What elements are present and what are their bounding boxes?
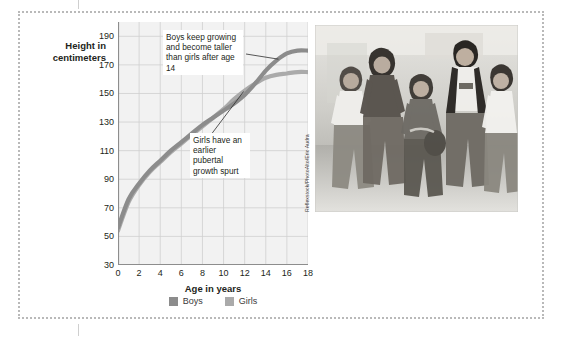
x-tick-label: 0: [115, 269, 120, 278]
legend-label: Boys: [183, 296, 203, 306]
legend-label: Girls: [239, 296, 258, 306]
legend-item: Girls: [225, 296, 258, 306]
y-tick-label: 70: [104, 203, 114, 212]
y-tick-label: 130: [99, 118, 114, 127]
y-tick-label: 50: [104, 232, 114, 241]
chart-legend: BoysGirls: [118, 296, 308, 306]
photo-graphic: [315, 25, 518, 212]
photo-block: Reflexstock/PhotoAlto/Eric Audra: [302, 25, 518, 212]
y-tick-label: 90: [104, 175, 114, 184]
x-tick-label: 18: [303, 269, 313, 278]
annotation-girls: Girls have an earlier pubertal growth sp…: [190, 133, 250, 178]
legend-swatch: [225, 297, 234, 306]
y-tick-label: 110: [100, 146, 114, 155]
y-tick-label: 190: [99, 32, 114, 41]
y-tick-label: 150: [99, 89, 114, 98]
legend-item: Boys: [169, 296, 203, 306]
photo-teenagers: [315, 25, 518, 212]
x-axis-title: Age in years: [118, 283, 308, 294]
x-tick-label: 12: [240, 269, 250, 278]
legend-swatch: [169, 297, 178, 306]
page-root: Height in centimeters 305070901101301501…: [0, 0, 563, 338]
y-axis-title: Height in centimeters: [34, 40, 106, 64]
x-tick-label: 14: [261, 269, 271, 278]
y-tick-label: 30: [104, 261, 114, 270]
photo-credit: Reflexstock/PhotoAlto/Eric Audra: [302, 25, 313, 212]
annotation-boys: Boys keep growing and become taller than…: [163, 30, 243, 75]
figure-container: Height in centimeters 305070901101301501…: [0, 0, 563, 338]
y-axis-title-line1: Height in: [34, 40, 106, 52]
x-tick-label: 2: [137, 269, 142, 278]
x-tick-label: 16: [282, 269, 292, 278]
y-tick-label: 170: [99, 60, 114, 69]
x-tick-label: 6: [179, 269, 184, 278]
x-tick-label: 4: [158, 269, 163, 278]
x-tick-label: 10: [219, 269, 229, 278]
y-axis-title-line2: centimeters: [34, 52, 106, 64]
x-tick-label: 8: [200, 269, 205, 278]
